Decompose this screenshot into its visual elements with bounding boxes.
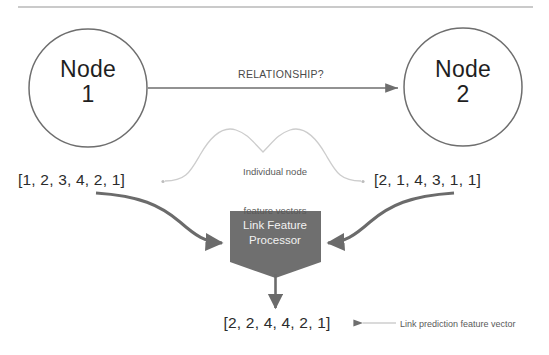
node-1-label: Node 1	[28, 57, 148, 107]
node-1-label-line2: 1	[28, 82, 148, 107]
node-2-label: Node 2	[404, 57, 522, 107]
node-1-feature-vector: [1, 2, 3, 4, 2, 1]	[18, 171, 178, 189]
node-2-label-line1: Node	[404, 57, 522, 82]
relationship-label: RELATIONSHIP?	[216, 68, 346, 80]
node-1-label-line1: Node	[28, 57, 148, 82]
node-2-feature-vector: [2, 1, 4, 3, 1, 1]	[374, 171, 544, 189]
processor-label-line2: Processor	[230, 233, 320, 248]
left-vector-to-processor-arrow	[96, 193, 222, 243]
brace-caption-line1: Individual node	[215, 165, 335, 178]
right-vector-to-processor-arrow	[328, 193, 454, 243]
brace-caption-line2: feature vectors	[215, 204, 335, 217]
link-prediction-caption: Link prediction feature vector	[400, 319, 549, 329]
processor-label-line1: Link Feature	[230, 218, 320, 233]
link-prediction-feature-vector: [2, 2, 4, 4, 2, 1]	[192, 314, 362, 332]
link-feature-processor-label: Link Feature Processor	[230, 218, 320, 248]
diagram-canvas: Node 1 Node 2 RELATIONSHIP? Individual n…	[0, 0, 549, 355]
node-2-label-line2: 2	[404, 82, 522, 107]
brace-right-endpoint-dot	[361, 180, 364, 183]
